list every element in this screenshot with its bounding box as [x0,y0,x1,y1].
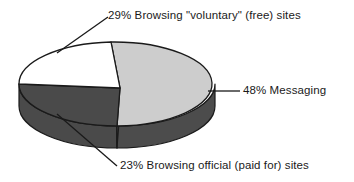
pie-top-face [19,42,212,126]
pie-label-messaging: 48% Messaging [243,84,326,97]
pie-label-voluntary: 29% Browsing "voluntary" (free) sites [108,9,301,22]
pie-chart-figure: 29% Browsing "voluntary" (free) sites 48… [0,0,354,182]
pie-label-official: 23% Browsing official (paid for) sites [120,159,309,172]
pie-slice-voluntary [19,42,120,88]
